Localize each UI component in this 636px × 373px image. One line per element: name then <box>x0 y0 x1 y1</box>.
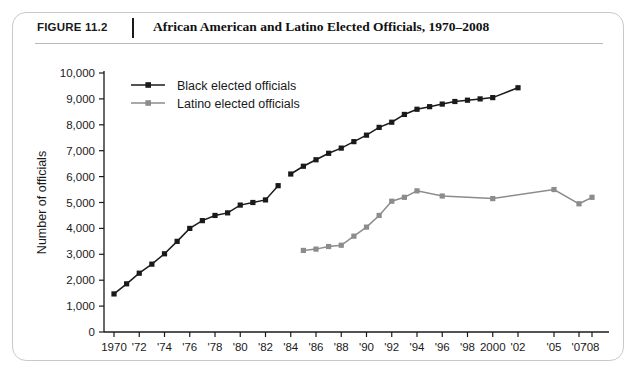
data-point <box>162 251 167 256</box>
legend-swatch-marker <box>145 82 151 88</box>
data-point <box>377 213 382 218</box>
x-axis-tick-label: '84 <box>283 341 299 353</box>
data-point <box>465 98 470 103</box>
x-axis-tick-label: '74 <box>157 341 173 353</box>
legend-label: Latino elected officials <box>177 97 300 111</box>
legend-item: Latino elected officials <box>131 97 300 111</box>
data-point <box>137 271 142 276</box>
y-axis-tick-label: 3,000 <box>66 248 95 260</box>
y-axis-tick-label: 8,000 <box>66 119 95 131</box>
x-axis-tick-label: '88 <box>334 341 349 353</box>
x-axis-tick-label: '82 <box>258 341 273 353</box>
y-axis-tick-label: 9,000 <box>66 93 95 105</box>
data-point <box>111 291 116 296</box>
data-point <box>490 196 495 201</box>
data-point <box>313 247 318 252</box>
x-axis-tick-label: '90 <box>359 341 374 353</box>
line-chart: 01,0002,0003,0004,0005,0006,0007,0008,00… <box>13 13 625 362</box>
x-axis-tick-label: '98 <box>460 341 475 353</box>
data-point <box>301 164 306 169</box>
data-point <box>440 101 445 106</box>
data-point <box>326 244 331 249</box>
legend-label: Black elected officials <box>177 79 296 93</box>
data-point <box>351 139 356 144</box>
data-point <box>414 107 419 112</box>
data-point <box>339 243 344 248</box>
data-point <box>364 133 369 138</box>
y-axis-tick-label: 6,000 <box>66 171 95 183</box>
data-point <box>238 202 243 207</box>
y-axis-tick-label: 10,000 <box>60 67 95 79</box>
data-point <box>402 112 407 117</box>
data-point <box>589 195 594 200</box>
y-axis-tick-label: 1,000 <box>66 300 95 312</box>
chart-plot-area: 01,0002,0003,0004,0005,0006,0007,0008,00… <box>13 13 625 362</box>
x-axis-tick-label: '96 <box>435 341 450 353</box>
data-point <box>313 157 318 162</box>
data-point <box>427 104 432 109</box>
data-point <box>351 234 356 239</box>
data-point <box>339 146 344 151</box>
data-point <box>326 151 331 156</box>
y-axis-title: Number of officials <box>35 151 49 254</box>
x-axis-tick-label: 2000 <box>480 341 506 353</box>
data-point <box>377 125 382 130</box>
data-point <box>301 248 306 253</box>
series-black-elected-officials <box>111 85 520 296</box>
data-point <box>276 183 281 188</box>
x-axis-tick-label: '86 <box>309 341 324 353</box>
data-point <box>490 95 495 100</box>
series-line <box>303 190 592 251</box>
x-axis-tick-label: '94 <box>410 341 426 353</box>
x-axis-tick-label: '92 <box>384 341 399 353</box>
y-axis-tick-label: 5,000 <box>66 197 95 209</box>
y-axis-tick-label: 7,000 <box>66 145 95 157</box>
x-axis-tick-label: '76 <box>182 341 197 353</box>
data-point <box>414 188 419 193</box>
data-point <box>263 197 268 202</box>
data-point <box>149 262 154 267</box>
data-point <box>212 213 217 218</box>
data-point <box>225 210 230 215</box>
data-point <box>402 195 407 200</box>
data-point <box>288 171 293 176</box>
series-latino-elected-officials <box>301 187 595 253</box>
data-point <box>440 193 445 198</box>
x-axis-tick-label: '08 <box>585 341 600 353</box>
data-point <box>389 199 394 204</box>
data-point <box>200 218 205 223</box>
data-point <box>515 85 520 90</box>
data-point <box>175 239 180 244</box>
x-axis-tick-label: '05 <box>547 341 562 353</box>
data-point <box>364 225 369 230</box>
legend-swatch-marker <box>145 100 151 106</box>
y-axis-tick-label: 0 <box>89 326 95 338</box>
data-point <box>576 201 581 206</box>
data-point <box>452 99 457 104</box>
data-point <box>478 96 483 101</box>
data-point <box>124 281 129 286</box>
x-axis-tick-label: '72 <box>132 341 147 353</box>
data-point <box>250 200 255 205</box>
data-point <box>389 120 394 125</box>
data-point <box>187 226 192 231</box>
legend-item: Black elected officials <box>131 79 296 93</box>
y-axis-tick-label: 2,000 <box>66 274 95 286</box>
x-axis-tick-label: 1970 <box>101 341 127 353</box>
figure-card: FIGURE 11.2 African American and Latino … <box>12 12 624 361</box>
x-axis-tick-label: '78 <box>208 341 223 353</box>
series-line <box>291 88 518 174</box>
x-axis-tick-label: '02 <box>511 341 526 353</box>
x-axis-tick-label: '80 <box>233 341 248 353</box>
y-axis-tick-label: 4,000 <box>66 222 95 234</box>
data-point <box>551 187 556 192</box>
